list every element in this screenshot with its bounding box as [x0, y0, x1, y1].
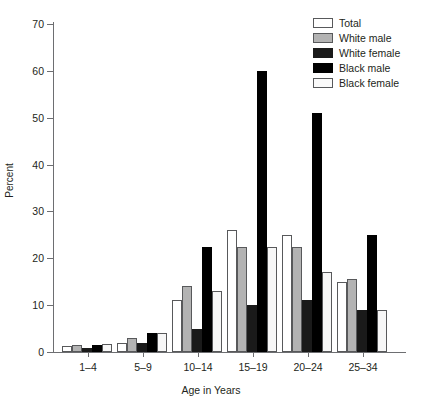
bar	[202, 247, 212, 352]
legend-item: Black male	[313, 61, 400, 75]
bar	[247, 305, 257, 352]
bar-group	[117, 24, 169, 352]
chart-legend: TotalWhite maleWhite femaleBlack maleBla…	[313, 16, 400, 91]
bar	[227, 230, 237, 352]
legend-item: Black female	[313, 76, 400, 90]
legend-item-label: White male	[339, 33, 392, 44]
bar	[312, 113, 322, 352]
legend-item: Total	[313, 16, 400, 30]
y-axis-tick-label: 50	[4, 113, 44, 123]
legend-swatch-icon	[313, 18, 333, 28]
bar	[367, 235, 377, 352]
bar	[237, 247, 247, 352]
x-axis-tick	[363, 352, 364, 357]
bar	[302, 300, 312, 352]
bar	[157, 333, 167, 352]
bar	[337, 282, 347, 352]
bar	[212, 291, 222, 352]
x-axis-title: Age in Years	[0, 384, 422, 396]
x-axis-tick	[143, 352, 144, 357]
bar	[282, 235, 292, 352]
bar	[127, 338, 137, 352]
legend-swatch-icon	[313, 63, 333, 73]
y-axis-tick-label: 60	[4, 66, 44, 76]
bar-group	[172, 24, 224, 352]
legend-swatch-icon	[313, 33, 333, 43]
x-axis-tick	[308, 352, 309, 357]
y-axis-tick	[47, 305, 54, 306]
legend-swatch-icon	[313, 78, 333, 88]
x-axis-tick-label: 25–34	[328, 361, 398, 373]
bar	[267, 247, 277, 352]
bar	[117, 343, 127, 352]
legend-item-label: Black female	[339, 78, 399, 89]
bar	[192, 329, 202, 352]
bar	[137, 343, 147, 352]
y-axis-tick-label: 30	[4, 206, 44, 216]
y-axis-tick	[47, 165, 54, 166]
bar	[257, 71, 267, 352]
bar	[102, 344, 112, 352]
y-axis-tick	[47, 352, 54, 353]
y-axis-tick	[47, 118, 54, 119]
legend-item-label: White female	[339, 48, 400, 59]
bar	[147, 333, 157, 352]
bar	[292, 247, 302, 352]
legend-item-label: Total	[339, 18, 361, 29]
y-axis-tick-label: 70	[4, 19, 44, 29]
y-axis-tick-label: 0	[4, 347, 44, 357]
y-axis-tick	[47, 24, 54, 25]
bar	[182, 286, 192, 352]
y-axis-tick-label: 40	[4, 160, 44, 170]
bar	[322, 272, 332, 352]
bar	[92, 345, 102, 352]
bar	[82, 348, 92, 352]
bar	[347, 279, 357, 352]
bar-group	[227, 24, 279, 352]
x-axis-line	[53, 352, 406, 353]
legend-item: White female	[313, 46, 400, 60]
bar	[377, 310, 387, 352]
legend-item-label: Black male	[339, 63, 390, 74]
bar	[62, 346, 72, 352]
x-axis-tick	[198, 352, 199, 357]
bar	[357, 310, 367, 352]
x-axis-tick	[88, 352, 89, 357]
bar	[72, 345, 82, 352]
y-axis-tick-label: 20	[4, 253, 44, 263]
legend-item: White male	[313, 31, 400, 45]
bar-chart: Percent 010203040506070 1–45–910–1415–19…	[0, 0, 422, 406]
y-axis-tick	[47, 258, 54, 259]
y-axis-tick-label: 10	[4, 300, 44, 310]
legend-swatch-icon	[313, 48, 333, 58]
y-axis-tick	[47, 71, 54, 72]
bar	[172, 300, 182, 352]
x-axis-tick	[253, 352, 254, 357]
bar-group	[62, 24, 114, 352]
y-axis-tick	[47, 211, 54, 212]
